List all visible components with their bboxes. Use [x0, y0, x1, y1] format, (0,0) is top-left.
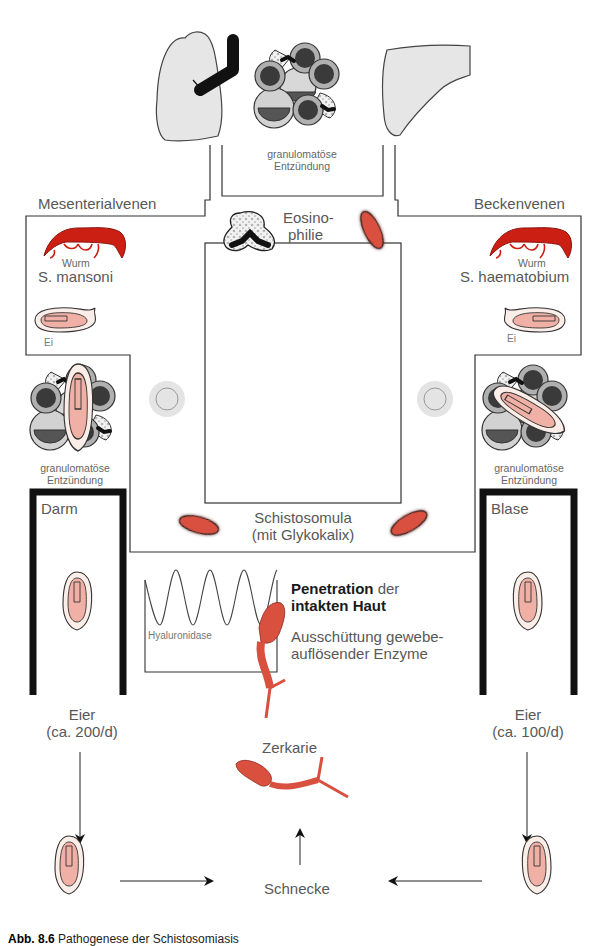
- cercaria-label: Zerkarie: [262, 739, 317, 756]
- worm-s-haematobium: [490, 228, 572, 258]
- eosinophilia-label: Eosino- philie: [283, 209, 334, 244]
- egg-darm: [63, 572, 92, 630]
- caption-number: Abb. 8.6: [8, 932, 55, 946]
- egg-s-mansoni: [35, 308, 96, 332]
- egg-bottom-left: [55, 836, 84, 894]
- label-line: Eier: [478, 706, 578, 723]
- label-line: (ca. 100/d): [478, 723, 578, 740]
- schistosomulum-right: [388, 506, 431, 540]
- granuloma-left: [30, 364, 115, 451]
- schistosomula-label: Schistosomula (mit Glykokalix): [230, 509, 376, 544]
- label-line: philie: [283, 226, 334, 243]
- label-line: Ausschüttung gewebe-: [291, 628, 444, 645]
- liver-icon: [382, 45, 470, 135]
- cercaria-free: [236, 757, 348, 797]
- organ-blase-label: Blase: [491, 500, 529, 517]
- penetration-rest: der: [374, 580, 400, 597]
- left-eggs-output: Eier (ca. 200/d): [32, 706, 132, 741]
- label-line: Entzündung: [484, 474, 574, 486]
- left-granuloma-label: granulomatöse Entzündung: [30, 462, 120, 486]
- species-s-haematobium: S. haematobium: [460, 268, 569, 285]
- granuloma-top: [254, 43, 339, 128]
- egg-label-left: Ei: [44, 337, 53, 349]
- caption-text: Pathogenese der Schistosomiasis: [58, 932, 239, 946]
- label-line: Eosino-: [283, 209, 334, 226]
- snail-label: Schnecke: [264, 880, 330, 897]
- egg-s-haematobium: [504, 308, 565, 332]
- penetration-bold: Penetration: [291, 580, 374, 597]
- top-granuloma-label: granulomatöse Entzündung: [257, 148, 347, 172]
- red-blood-cell-right: [417, 381, 453, 417]
- label-line: granulomatöse: [30, 462, 120, 474]
- eosinophil-icon: [224, 212, 275, 251]
- right-granuloma-label: granulomatöse Entzündung: [484, 462, 574, 486]
- figure-caption: Abb. 8.6 Pathogenese der Schistosomiasis: [8, 932, 239, 946]
- egg-bottom-right: [522, 836, 551, 894]
- intact-skin-bold: intakten Haut: [291, 597, 399, 614]
- label-line: Schistosomula: [230, 509, 376, 526]
- mesenteric-veins-title: Mesenterialvenen: [38, 195, 156, 212]
- schistosomulum-left: [178, 512, 221, 538]
- pelvic-veins-title: Beckenvenen: [474, 195, 565, 212]
- egg-blase: [513, 572, 542, 630]
- enzyme-release-text: Ausschüttung gewebe- auflösender Enzyme: [291, 628, 444, 663]
- schistosomulum-top: [356, 208, 387, 251]
- penetration-line: Penetration der: [291, 580, 399, 597]
- penetration-text: Penetration der intakten Haut: [291, 580, 399, 615]
- label-line: (ca. 200/d): [32, 723, 132, 740]
- label-line: (mit Glykokalix): [230, 526, 376, 543]
- hyaluronidase-label: Hyaluronidase: [148, 630, 212, 642]
- organ-darm-label: Darm: [41, 500, 78, 517]
- label-line: Entzündung: [257, 160, 347, 172]
- lung-icon: [156, 32, 233, 141]
- label-line: Eier: [32, 706, 132, 723]
- label-line: granulomatöse: [257, 148, 347, 160]
- species-s-mansoni: S. mansoni: [38, 268, 113, 285]
- red-blood-cell-left: [149, 381, 185, 417]
- cercaria-penetrating: [259, 603, 285, 718]
- granuloma-right: [482, 365, 571, 450]
- label-line: granulomatöse: [484, 462, 574, 474]
- label-line: auflösender Enzyme: [291, 645, 444, 662]
- egg-label-right: Ei: [507, 333, 516, 345]
- right-eggs-output: Eier (ca. 100/d): [478, 706, 578, 741]
- worm-s-mansoni: [44, 228, 126, 258]
- label-line: Entzündung: [30, 474, 120, 486]
